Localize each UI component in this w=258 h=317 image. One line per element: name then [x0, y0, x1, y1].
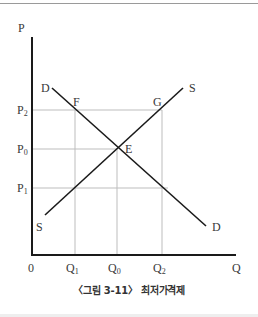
- q0-label: Q0: [108, 261, 121, 276]
- point-e-label: E: [125, 142, 132, 156]
- y-axis-label: P: [18, 21, 25, 35]
- p1-label: P1: [17, 181, 28, 196]
- q2-label: Q2: [153, 261, 166, 276]
- q1-label: Q1: [66, 261, 79, 276]
- axes: [31, 37, 236, 256]
- figure-caption: 〈그림 3-11〉 최저가격제: [0, 282, 258, 297]
- origin-label: 0: [28, 261, 34, 275]
- demand-label-bottom: D: [212, 220, 221, 234]
- x-axis-label: Q: [232, 261, 241, 275]
- supply-label-bottom: S: [36, 220, 43, 234]
- price-floor-diagram: P Q 0 P2 P0 P1 Q1 Q0 Q2 D D S S F G E: [0, 0, 258, 317]
- p0-label: P0: [17, 142, 28, 157]
- point-g-label: G: [153, 95, 162, 109]
- p2-label: P2: [17, 103, 28, 118]
- demand-label-top: D: [41, 81, 50, 95]
- supply-label-top: S: [189, 81, 196, 95]
- point-f-label: F: [73, 95, 80, 109]
